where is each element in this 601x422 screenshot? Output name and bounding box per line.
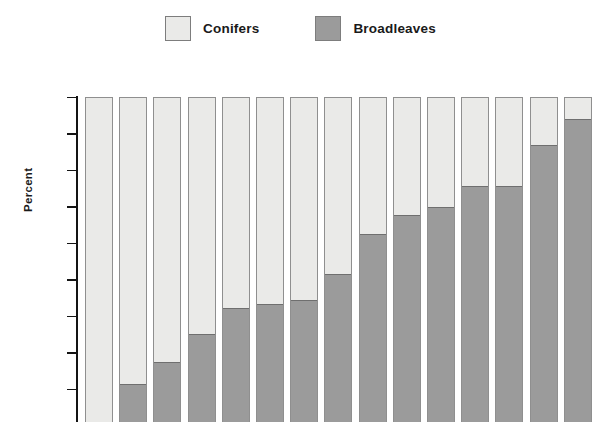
bar-segment-broadleaves: [120, 384, 146, 422]
bar-column: [530, 97, 558, 422]
bar-column: [495, 97, 523, 422]
bar-segment-broadleaves: [189, 334, 215, 422]
bar-column: [85, 97, 113, 422]
bar-column: [564, 97, 592, 422]
chart-plot-area: Percent 100908070605040302010: [0, 0, 601, 422]
bar-column: [153, 97, 181, 422]
bar-segment-broadleaves: [325, 274, 351, 422]
bar-segment-broadleaves: [428, 207, 454, 422]
bar-column: [256, 97, 284, 422]
bar-column: [427, 97, 455, 422]
bar-segment-broadleaves: [154, 362, 180, 422]
bar-segment-broadleaves: [223, 308, 249, 422]
bar-column: [461, 97, 489, 422]
bar-segment-broadleaves: [531, 145, 557, 422]
bar-segment-broadleaves: [462, 186, 488, 422]
bar-column: [359, 97, 387, 422]
bar-column: [290, 97, 318, 422]
bar-column: [188, 97, 216, 422]
bar-column: [324, 97, 352, 422]
bar-column: [119, 97, 147, 422]
bar-column: [393, 97, 421, 422]
bar-segment-broadleaves: [360, 234, 386, 422]
bar-segment-broadleaves: [496, 186, 522, 422]
bar-segment-broadleaves: [291, 300, 317, 422]
bar-segment-broadleaves: [394, 215, 420, 422]
bar-column: [222, 97, 250, 422]
bar-series-group: [0, 0, 601, 422]
bar-segment-broadleaves: [565, 119, 591, 422]
bar-segment-broadleaves: [257, 304, 283, 422]
